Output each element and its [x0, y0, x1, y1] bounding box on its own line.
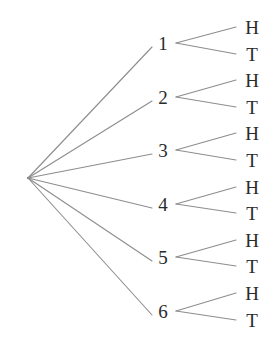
branch-die-5-to-coin-H	[176, 240, 236, 257]
root-node	[27, 177, 29, 179]
die-outcome-6: 6	[158, 302, 168, 321]
branch-root-to-die-6	[28, 178, 152, 315]
branch-die-6-to-coin-H	[176, 293, 236, 311]
die-outcome-2: 2	[158, 88, 168, 107]
die-outcome-5: 5	[158, 248, 168, 267]
coin-outcome-3-T: T	[246, 151, 258, 170]
coin-outcome-2-H: H	[245, 71, 259, 90]
branch-die-1-to-coin-T	[176, 43, 236, 54]
coin-outcome-5-H: H	[245, 231, 259, 250]
coin-outcome-5-T: T	[246, 257, 258, 276]
coin-outcome-2-T: T	[246, 98, 258, 117]
branch-die-4-to-coin-H	[176, 187, 236, 204]
die-outcome-1: 1	[158, 34, 168, 53]
branch-die-1-to-coin-H	[176, 27, 236, 43]
branch-die-2-to-coin-H	[176, 80, 236, 97]
branch-die-3-to-coin-T	[176, 150, 236, 160]
coin-outcome-6-H: H	[245, 284, 259, 303]
branch-die-3-to-coin-H	[176, 133, 236, 150]
branch-die-4-to-coin-T	[176, 204, 236, 213]
die-outcome-4: 4	[158, 195, 168, 214]
coin-outcome-4-H: H	[245, 178, 259, 197]
die-outcome-3: 3	[158, 141, 168, 160]
coin-outcome-6-T: T	[246, 311, 258, 330]
branch-die-6-to-coin-T	[176, 311, 236, 320]
branch-root-to-die-4	[28, 178, 152, 208]
probability-tree-diagram: 123456HTHTHTHTHTHT	[0, 0, 278, 347]
branch-die-2-to-coin-T	[176, 97, 236, 107]
coin-outcome-1-T: T	[246, 45, 258, 64]
branch-root-to-die-5	[28, 178, 152, 261]
coin-outcome-1-H: H	[245, 18, 259, 37]
branch-die-5-to-coin-T	[176, 257, 236, 266]
tree-branch-lines	[0, 0, 278, 347]
coin-outcome-3-H: H	[245, 124, 259, 143]
coin-outcome-4-T: T	[246, 204, 258, 223]
